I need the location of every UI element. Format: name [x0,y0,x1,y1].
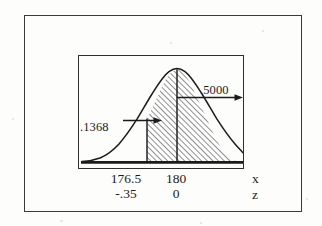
right-area-label: .5000 [200,83,229,98]
z-axis-name: z [252,187,258,203]
z-tick-minus-0-35: -.35 [115,186,136,202]
z-tick-row: -.35 0 [78,186,244,203]
scan-speckle [12,118,14,120]
figure-page: .1368 .5000 176.5 180 -.35 0 x z [0,0,322,226]
shaded-area-under-curve [79,56,244,169]
normal-curve-graphic [79,56,244,169]
scan-speckle [306,198,308,200]
z-tick-0: 0 [173,186,180,202]
plot-area [78,55,244,169]
x-tick-180: 180 [166,171,186,187]
x-axis-name: x [252,171,259,187]
x-tick-176-5: 176.5 [111,171,141,187]
scan-speckle [60,220,63,222]
scan-speckle [200,222,202,224]
left-area-label: .1368 [80,120,109,135]
right-area-arrow-head [235,94,244,101]
